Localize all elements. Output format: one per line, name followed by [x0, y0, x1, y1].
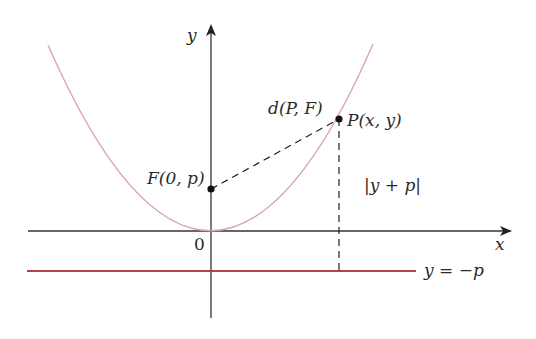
focus-to-point-dashed-segment: [211, 119, 339, 189]
focus-label: F(0, p): [146, 168, 205, 188]
directrix-label: y = −p: [423, 260, 484, 280]
x-axis-label: x: [495, 234, 505, 254]
y-axis-label: y: [186, 25, 197, 45]
distance-focus-label: d(P, F): [268, 98, 323, 118]
curve-point-p: [335, 115, 342, 122]
point-p-label: P(x, y): [346, 110, 402, 130]
parabola-diagram: y x 0 F(0, p) P(x, y) d(P, F) |y + p| y …: [0, 0, 536, 339]
distance-directrix-label: |y + p|: [364, 175, 421, 195]
focus-point: [207, 185, 214, 192]
origin-label: 0: [194, 234, 205, 254]
